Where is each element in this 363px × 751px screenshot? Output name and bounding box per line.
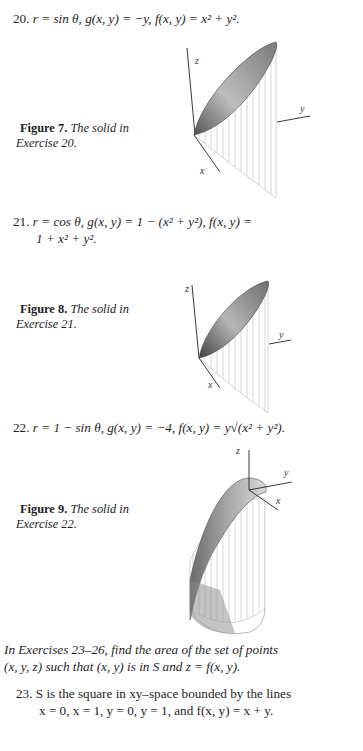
exercise-number: 23. [16,686,32,702]
z-axis-label: z [184,283,189,294]
figure-label: Figure 9. [20,502,67,516]
z-axis-label: z [194,55,199,66]
exercise-23-line2: x = 0, x = 1, y = 0, y = 1, and f(x, y) … [39,703,273,719]
z-axis [187,48,195,135]
caption-text: Exercise 21. [16,317,77,331]
exercise-text: r = sin θ, g(x, y) = −y, f(x, y) = x² + … [33,11,240,26]
figure-7-caption: Figure 7. The solid in [20,121,129,136]
exercise-group-intro: In Exercises 23–26, find the area of the… [4,642,278,658]
x-axis-label: x [275,495,281,506]
figure-label: Figure 8. [20,302,67,316]
exercise-23: 23. S is the square in xy–space bounded … [16,686,291,702]
figure-9-caption: Figure 9. The solid in [20,502,129,517]
y-axis [277,116,310,122]
figure-9-solid-illustration: z y x [180,440,330,640]
z-axis [192,285,199,358]
figure-8-solid-illustration: z y x [180,280,300,420]
exercise-number: 21. [13,214,29,230]
exercise-text: r = 1 − sin θ, g(x, y) = −4, f(x, y) = y… [33,420,285,435]
x-axis-label: x [207,379,213,390]
exercise-number: 22. [13,420,29,436]
exercise-21-line2: 1 + x² + y². [36,231,97,247]
figure-7-solid-illustration: z y x [180,40,330,210]
caption-text: Exercise 20. [16,136,77,150]
exercise-text: S is the square in xy–space bounded by t… [36,686,291,701]
exercise-group-intro-line2: (x, y, z) such that (x, y) is in S and z… [4,659,240,675]
exercise-text: x = 0, x = 1, y = 0, y = 1, and f(x, y) … [39,703,273,718]
exercise-21: 21. r = cos θ, g(x, y) = 1 − (x² + y²), … [13,214,252,230]
intro-line-1: In Exercises 23–26, find the area of the… [4,642,278,657]
figure-8-caption-line2: Exercise 21. [16,317,77,332]
x-axis-label: x [199,165,205,176]
exercise-number: 20. [13,11,29,27]
z-axis-label: z [235,445,240,456]
figure-7-caption-line2: Exercise 20. [16,136,77,151]
figure-label: Figure 7. [20,121,67,135]
caption-text: The solid in [70,121,129,135]
exercise-text: 1 + x² + y². [36,231,97,246]
figure-8-caption: Figure 8. The solid in [20,302,129,317]
caption-text: The solid in [70,502,129,516]
exercise-22: 22. r = 1 − sin θ, g(x, y) = −4, f(x, y)… [13,420,285,436]
y-axis-label: y [278,329,284,340]
exercise-text: r = cos θ, g(x, y) = 1 − (x² + y²), f(x,… [33,214,252,229]
y-axis [269,340,291,344]
caption-text: Exercise 22. [16,517,77,531]
y-axis-label: y [299,103,305,114]
y-axis-label: y [283,467,289,478]
intro-line-2: (x, y, z) such that (x, y) is in S and z… [4,659,240,674]
figure-9-caption-line2: Exercise 22. [16,517,77,532]
exercise-20: 20. r = sin θ, g(x, y) = −y, f(x, y) = x… [13,11,240,27]
caption-text: The solid in [70,302,129,316]
